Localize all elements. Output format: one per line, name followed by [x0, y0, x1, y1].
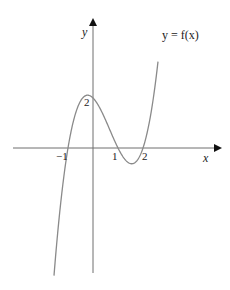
- tick-label-x-2: 2: [142, 151, 148, 162]
- tick-label-x-1: 1: [112, 151, 118, 162]
- y-axis-label: y: [82, 26, 87, 38]
- function-curve: [54, 62, 158, 276]
- x-axis-label: x: [203, 152, 208, 164]
- cubic-graph: [0, 0, 230, 290]
- curve-label: y = f(x): [162, 29, 199, 41]
- curve-label-text: y = f(x): [162, 28, 199, 42]
- tick-label-x-neg1: −1: [56, 151, 68, 162]
- tick-label-y-2: 2: [84, 97, 90, 108]
